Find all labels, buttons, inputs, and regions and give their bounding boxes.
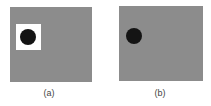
panel-a-label: (a) [34,88,64,98]
panel-b-label: (b) [145,88,175,98]
panel-b [119,6,203,81]
black-dot [20,29,36,45]
black-dot [126,28,142,44]
panel-a [10,7,92,82]
